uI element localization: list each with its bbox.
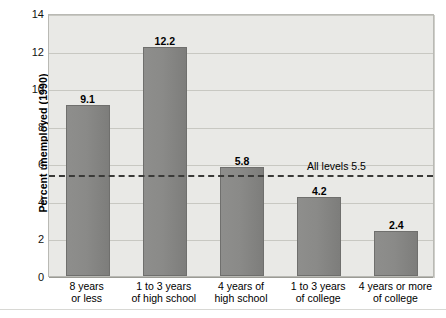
x-axis-label: 1 to 3 yearsof college — [276, 281, 361, 304]
x-axis-label-line: 1 to 3 years — [276, 281, 361, 293]
x-axis-label-line: or less — [44, 293, 129, 305]
x-axis-label-line: high school — [198, 293, 283, 305]
x-axis-label-line: of college — [353, 293, 438, 305]
y-tick-label: 8 — [4, 121, 44, 132]
bar — [220, 167, 264, 276]
reference-line-label: All levels 5.5 — [307, 160, 366, 172]
bar-value-label: 5.8 — [208, 155, 276, 167]
bar-value-label: 12.2 — [131, 35, 199, 47]
plot-inner: 9.112.25.84.22.4All levels 5.5 — [49, 15, 433, 276]
x-axis-label-line: 1 to 3 years — [121, 281, 206, 293]
x-axis-label-line: 4 years or more — [353, 281, 438, 293]
y-tick-label: 4 — [4, 196, 44, 207]
gridline — [49, 53, 433, 54]
x-axis-label: 1 to 3 yearsof high school — [121, 281, 206, 304]
y-tick-label: 2 — [4, 234, 44, 245]
bar — [66, 105, 110, 276]
y-tick-label: 12 — [4, 46, 44, 57]
x-axis-label: 4 years or moreof college — [353, 281, 438, 304]
bar-chart: Percent unemployed (1990) 02468101214 9.… — [0, 0, 446, 318]
x-axis-label: 4 years ofhigh school — [198, 281, 283, 304]
bottom-divider — [0, 309, 446, 310]
y-tick-label: 0 — [4, 272, 44, 283]
bar-value-label: 2.4 — [362, 219, 430, 231]
y-tick-label: 14 — [4, 9, 44, 20]
bar — [143, 47, 187, 276]
gridline — [49, 277, 433, 278]
plot-area: 9.112.25.84.22.4All levels 5.5 — [48, 14, 434, 277]
x-axis-label-line: 4 years of — [198, 281, 283, 293]
bar-value-label: 4.2 — [285, 185, 353, 197]
y-tick-label: 10 — [4, 84, 44, 95]
bar — [297, 197, 341, 276]
x-axis-label-line: of college — [276, 293, 361, 305]
bar-value-label: 9.1 — [54, 93, 122, 105]
gridline — [49, 15, 433, 16]
x-axis-label: 8 yearsor less — [44, 281, 129, 304]
x-axis-label-line: 8 years — [44, 281, 129, 293]
bar — [374, 231, 418, 276]
y-axis-tick-labels: 02468101214 — [0, 0, 44, 318]
x-axis-label-line: of high school — [121, 293, 206, 305]
gridline — [49, 90, 433, 91]
reference-line — [49, 175, 433, 177]
y-tick-label: 6 — [4, 159, 44, 170]
